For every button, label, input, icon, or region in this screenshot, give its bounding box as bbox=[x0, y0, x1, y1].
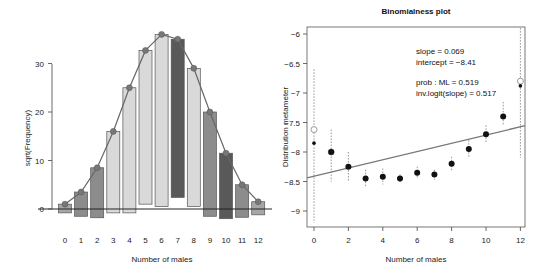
x-tick-label: 7 bbox=[175, 236, 180, 245]
y-axis-label: sqrt(Frequency) bbox=[23, 109, 32, 166]
rootogram-bars bbox=[59, 34, 265, 218]
fitted-point bbox=[143, 47, 149, 53]
y-tick-label: −9 bbox=[291, 207, 301, 216]
fitted-point bbox=[78, 189, 84, 195]
y-axis: 0102030 bbox=[35, 60, 52, 215]
x-tick-label: 1 bbox=[79, 236, 84, 245]
x-tick-label: 8 bbox=[192, 236, 197, 245]
x-tick-label: 8 bbox=[449, 236, 454, 245]
rootogram-bar bbox=[155, 34, 168, 206]
chart-canvas: 0102030 0123456789101112 Number of males… bbox=[0, 0, 545, 279]
fitted-point bbox=[191, 65, 197, 71]
metameter-point bbox=[483, 131, 489, 137]
x-axis-ticks: 024681012 bbox=[312, 227, 526, 245]
y-tick-label: 0 bbox=[40, 205, 45, 214]
rootogram-bar bbox=[187, 68, 200, 206]
annotation-inv-logit: inv.logit(slope) = 0.517 bbox=[416, 89, 497, 98]
y-tick-label: 20 bbox=[35, 108, 44, 117]
y-tick-label: −6.5 bbox=[284, 60, 300, 69]
x-tick-label: 3 bbox=[111, 236, 116, 245]
metameter-point bbox=[363, 176, 369, 182]
x-tick-label: 12 bbox=[516, 236, 525, 245]
fitted-point bbox=[159, 31, 165, 37]
rootogram-bar bbox=[203, 112, 216, 216]
x-tick-label: 0 bbox=[63, 236, 68, 245]
fitted-point bbox=[255, 199, 261, 205]
metameter-point bbox=[466, 146, 472, 152]
x-tick-label: 0 bbox=[312, 236, 317, 245]
x-tick-label: 11 bbox=[238, 236, 247, 245]
y-tick-label: −6 bbox=[291, 30, 301, 39]
x-axis-tick-labels: 0123456789101112 bbox=[63, 236, 263, 245]
rootogram-bar bbox=[107, 131, 120, 212]
x-tick-label: 6 bbox=[415, 236, 420, 245]
annotation-slope: slope = 0.069 bbox=[416, 47, 465, 56]
y-tick-label: −8.5 bbox=[284, 178, 300, 187]
x-tick-label: 12 bbox=[254, 236, 263, 245]
x-tick-label: 5 bbox=[143, 236, 148, 245]
open-point bbox=[311, 127, 317, 133]
rootogram-plot: 0102030 0123456789101112 Number of males… bbox=[23, 31, 272, 264]
fitted-point bbox=[239, 182, 245, 188]
x-tick-label: 2 bbox=[346, 236, 351, 245]
rootogram-bar bbox=[139, 50, 152, 204]
binomialness-plot: Binomialness plot −6−6.5−7−7.5−8−8.5−9 0… bbox=[281, 7, 525, 264]
x-tick-label: 4 bbox=[381, 236, 386, 245]
y-tick-label: 30 bbox=[35, 60, 44, 69]
plot-title: Binomialness plot bbox=[382, 7, 451, 16]
y-tick-label: −8 bbox=[291, 148, 301, 157]
fitted-point bbox=[223, 150, 229, 156]
fitted-point bbox=[110, 128, 116, 134]
metameter-point bbox=[449, 161, 455, 167]
x-tick-label: 2 bbox=[95, 236, 100, 245]
y-tick-label: −7 bbox=[291, 89, 301, 98]
fitted-point bbox=[175, 36, 181, 42]
metameter-point bbox=[397, 176, 403, 182]
plot-frame bbox=[307, 27, 525, 227]
metameter-point bbox=[500, 114, 506, 120]
fitted-point bbox=[126, 85, 132, 91]
fitted-point bbox=[62, 201, 68, 207]
metameter-point bbox=[380, 174, 386, 180]
x-axis-label: Number of males bbox=[386, 255, 447, 264]
metameter-point bbox=[328, 149, 334, 155]
rootogram-bar bbox=[171, 39, 184, 197]
x-axis-label: Number of males bbox=[132, 255, 193, 264]
metameter-point bbox=[345, 164, 351, 170]
fitted-point bbox=[94, 165, 100, 171]
x-tick-label: 6 bbox=[159, 236, 164, 245]
metameter-point bbox=[312, 141, 316, 145]
metameter-point bbox=[414, 170, 420, 176]
y-tick-label: 10 bbox=[35, 157, 44, 166]
x-tick-label: 4 bbox=[127, 236, 132, 245]
metameter-point bbox=[519, 84, 523, 88]
rootogram-bar bbox=[123, 88, 136, 213]
annotation-prob-ml: prob : ML = 0.519 bbox=[416, 78, 479, 87]
open-point bbox=[517, 78, 523, 84]
x-tick-label: 10 bbox=[482, 236, 491, 245]
annotation-intercept: intercept = −8.41 bbox=[416, 58, 477, 67]
fitted-point bbox=[207, 109, 213, 115]
x-tick-label: 10 bbox=[222, 236, 231, 245]
metameter-point bbox=[431, 171, 437, 177]
y-axis-label: Distribution metameter bbox=[281, 86, 290, 167]
x-tick-label: 9 bbox=[208, 236, 213, 245]
